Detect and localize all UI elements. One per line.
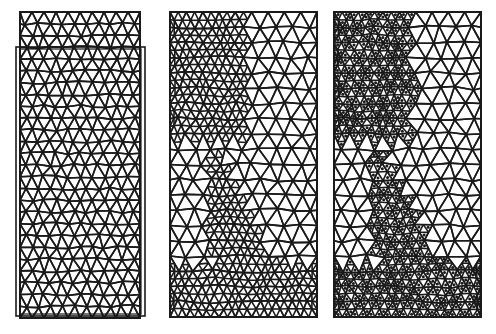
mesh-mesh-adaptive xyxy=(170,12,317,317)
mesh-mesh-deformed xyxy=(20,12,140,318)
panel-adaptive-mesh xyxy=(170,12,317,317)
mesh-edges xyxy=(20,12,140,318)
deformed-boundary-inner xyxy=(20,49,141,314)
mesh-edges xyxy=(170,12,317,317)
mesh-edges xyxy=(334,12,481,317)
mesh-mesh-adaptive-marked xyxy=(334,12,483,317)
mesh-figure xyxy=(0,0,496,334)
panel-adaptive-mesh-marked xyxy=(334,12,483,317)
panel-uniform-mesh-deformed xyxy=(16,12,145,318)
